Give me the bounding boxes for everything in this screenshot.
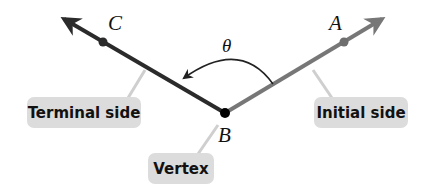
point-a-dot xyxy=(340,38,349,47)
terminal-leader-line xyxy=(128,70,145,98)
point-a-label: A xyxy=(327,11,342,35)
vertex-label: Vertex xyxy=(153,160,209,178)
theta-label: θ xyxy=(222,35,231,56)
angle-diagram: C A B θ Terminal side Initial side Verte… xyxy=(0,0,428,193)
point-c-label: C xyxy=(108,11,123,35)
vertex-leader-line xyxy=(198,125,218,154)
point-b-label: B xyxy=(218,123,231,147)
initial-side-label: Initial side xyxy=(316,104,405,122)
theta-arc xyxy=(184,59,273,84)
initial-leader-line xyxy=(313,70,332,98)
terminal-side-label: Terminal side xyxy=(28,104,141,122)
point-c-dot xyxy=(99,38,108,47)
vertex-dot xyxy=(220,108,230,118)
